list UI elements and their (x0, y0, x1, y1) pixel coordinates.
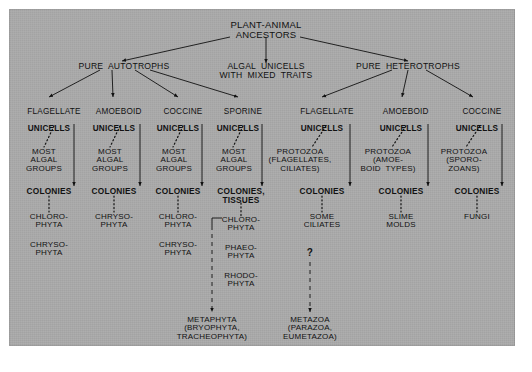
node-leaf-coccine-hetero-1: FUNGI (464, 213, 490, 221)
node-pure-autotrophs: PURE AUTOTROPHS (79, 62, 170, 71)
node-colonies-amoeboid-auto: COLONIES (92, 187, 137, 196)
node-leaf-flagellate-auto-2: CHRYSO- PHYTA (30, 241, 68, 258)
unicell-type-label: AMOEBOID (96, 107, 142, 116)
unicell-type-label: AMOEBOID (383, 107, 429, 116)
unicell-type-label: SPORINE (224, 107, 262, 116)
node-algal-unicells-mixed: ALGAL UNICELLS WITH MIXED TRAITS (220, 62, 313, 80)
node-leaf-amoeboid-hetero-1: SLIME MOLDS (386, 213, 415, 230)
node-colonies-coccine-hetero: COLONIES (455, 187, 500, 196)
node-middle-sporine-auto: MOST ALGAL GROUPS (216, 148, 252, 173)
node-colonies-coccine-auto: COLONIES (156, 187, 201, 196)
unicell-type-label: FLAGELLATE (27, 107, 80, 116)
node-unicell-sporine-auto: SPORINE UNICELLS (214, 99, 262, 151)
unicell-unicells-label: UNICELLS (153, 125, 202, 134)
unicell-unicells-label: UNICELLS (373, 125, 428, 134)
node-middle-flagellate-auto: MOST ALGAL GROUPS (26, 148, 62, 173)
node-leaf-flagellate-hetero-1: SOME CILIATES (304, 213, 341, 230)
node-colonies-flagellate-hetero: COLONIES (300, 187, 345, 196)
node-unicell-flagellate-hetero: FLAGELLATE UNICELLS (290, 99, 353, 151)
node-middle-coccine-auto: MOST ALGAL GROUPS (156, 148, 192, 173)
node-metazoa: METAZOA (PARAZOA, EUMETAZOA) (283, 316, 337, 341)
unicell-unicells-label: UNICELLS (290, 125, 353, 134)
unicell-unicells-label: UNICELLS (17, 125, 80, 134)
unicell-unicells-label: UNICELLS (214, 125, 262, 134)
node-colonies-sporine-auto: COLONIES, TISSUES (217, 187, 264, 205)
node-colonies-flagellate-auto: COLONIES (27, 187, 72, 196)
node-leaf-flagellate-auto-1: CHLORO- PHYTA (30, 213, 68, 230)
diagram-root: PLANT-ANIMAL ANCESTORS PURE AUTOTROPHS A… (0, 0, 532, 372)
node-leaf-amoeboid-auto-1: CHRYSO- PHYTA (95, 213, 133, 230)
unicell-type-label: COCCINE (163, 107, 202, 116)
node-leaf-sporine-auto-3: RHODO- PHYTA (224, 272, 258, 289)
node-leaf-sporine-auto-2: PHAEO- PHYTA (225, 244, 257, 261)
node-middle-flagellate-hetero: PROTOZOA (FLAGELLATES, CILIATES) (269, 148, 332, 173)
node-leaf-coccine-auto-1: CHLORO- PHYTA (159, 213, 197, 230)
node-colonies-amoeboid-hetero: COLONIES (379, 187, 424, 196)
node-unicell-amoeboid-auto: AMOEBOID UNICELLS (86, 99, 141, 151)
connector-layer (0, 0, 532, 372)
unicell-type-label: FLAGELLATE (300, 107, 353, 116)
node-leaf-coccine-auto-2: CHRYSO- PHYTA (159, 241, 197, 258)
node-middle-amoeboid-hetero: PROTOZOA (AMOE- BOID TYPES) (360, 148, 415, 173)
node-unicell-flagellate-auto: FLAGELLATE UNICELLS (17, 99, 80, 151)
unicell-type-label: COCCINE (462, 107, 501, 116)
node-unicell-amoeboid-hetero: AMOEBOID UNICELLS (373, 99, 428, 151)
node-middle-coccine-hetero: PROTOZOA (SPORO- ZOANS) (441, 148, 487, 173)
node-middle-amoeboid-auto: MOST ALGAL GROUPS (92, 148, 128, 173)
node-unicell-coccine-auto: COCCINE UNICELLS (153, 99, 202, 151)
node-unicell-coccine-hetero: COCCINE UNICELLS (452, 99, 501, 151)
uncertainty-question-mark: ? (307, 248, 313, 259)
node-leaf-sporine-auto-1: CHLORO- PHYTA (222, 216, 260, 233)
unicell-unicells-label: UNICELLS (86, 125, 141, 134)
unicell-unicells-label: UNICELLS (452, 125, 501, 134)
node-plant-animal-ancestors: PLANT-ANIMAL ANCESTORS (230, 20, 301, 40)
node-pure-heterotrophs: PURE HETEROTROPHS (356, 62, 460, 71)
node-metaphyta: METAPHYTA (BRYOPHYTA, TRACHEOPHYTA) (177, 316, 247, 341)
